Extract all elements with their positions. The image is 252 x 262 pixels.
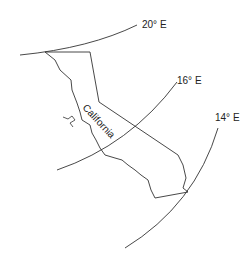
meridian-20e-label: 20° E xyxy=(142,19,167,30)
meridian-16e-label: 16° E xyxy=(177,75,202,86)
meridian-14e-label: 14° E xyxy=(215,112,240,123)
map-canvas: 20° E 16° E 14° E California xyxy=(0,0,252,262)
bay-detail xyxy=(63,116,75,127)
meridian-16e-line xyxy=(57,82,177,170)
california-outline xyxy=(45,52,188,198)
meridian-20e-line xyxy=(20,25,137,55)
state-label: California xyxy=(81,102,118,141)
meridian-14e-line xyxy=(125,128,218,248)
